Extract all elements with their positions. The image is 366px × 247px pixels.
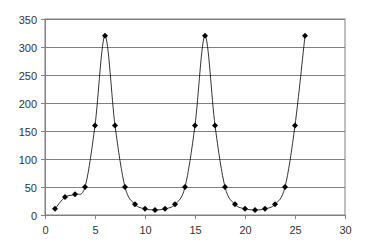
- y-tick-label: 100: [19, 154, 37, 166]
- y-tick-label: 200: [19, 98, 37, 110]
- x-tick-label: 10: [139, 224, 151, 236]
- y-tick-label: 300: [19, 42, 37, 54]
- y-tick-label: 150: [19, 126, 37, 138]
- x-tick-label: 20: [239, 224, 251, 236]
- plot-border: [45, 19, 345, 215]
- y-tick-label: 250: [19, 70, 37, 82]
- x-tick-label: 5: [92, 224, 98, 236]
- y-tick-label: 50: [25, 182, 37, 194]
- x-tick-label: 15: [189, 224, 201, 236]
- x-tick-label: 0: [42, 224, 48, 236]
- x-tick-label: 25: [289, 224, 301, 236]
- line-chart: 050100150200250300350 051015202530: [0, 0, 366, 247]
- x-axis: 051015202530: [42, 215, 351, 236]
- y-tick-label: 350: [19, 14, 37, 26]
- x-tick-label: 30: [339, 224, 351, 236]
- y-tick-label: 0: [31, 210, 37, 222]
- plot-area: [45, 19, 345, 215]
- y-axis: 050100150200250300350: [19, 14, 46, 222]
